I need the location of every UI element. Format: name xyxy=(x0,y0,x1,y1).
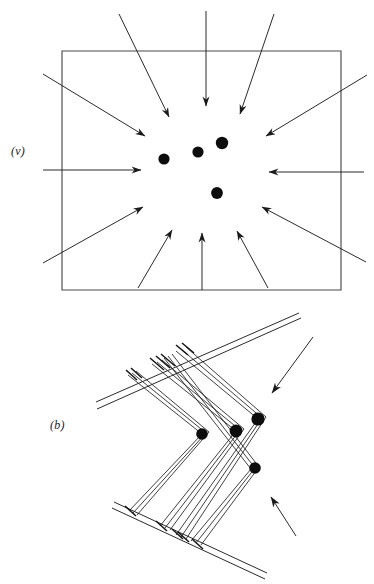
arrow-top-left-in xyxy=(119,14,169,117)
arrow-lower-left-diag xyxy=(43,207,143,263)
arrow-bottom-right-up xyxy=(237,231,268,288)
hatch-mark xyxy=(156,356,170,368)
arrow-bottom-left-up xyxy=(138,230,172,288)
dot xyxy=(158,153,169,164)
dot xyxy=(192,146,203,157)
panel-b-diagram xyxy=(0,294,374,584)
bundle-line xyxy=(176,351,258,535)
panel-v-diagram xyxy=(0,0,374,310)
panel-label-v: (v) xyxy=(11,144,25,159)
arrow-top-right-in xyxy=(240,14,274,114)
panel-label-b: (b) xyxy=(50,418,65,433)
arrow-lower-right-diag xyxy=(262,207,366,262)
dot xyxy=(251,412,264,425)
hatch-mark xyxy=(172,529,183,539)
dot xyxy=(230,425,243,438)
panel-b-arrow-group xyxy=(271,337,313,536)
arrow-upper-incoming xyxy=(272,337,313,393)
dot xyxy=(249,462,261,474)
bundle-line xyxy=(164,358,251,541)
bundle-line xyxy=(136,371,209,515)
panel-b-bundle-3 xyxy=(176,347,266,539)
band-line xyxy=(112,508,265,579)
panel-b-lower-band xyxy=(112,502,267,579)
bundle-line xyxy=(172,354,259,545)
arrow-upper-left-diag xyxy=(43,74,145,136)
arrow-lower-incoming xyxy=(271,497,296,536)
dot xyxy=(216,137,228,149)
panel-v-boundary xyxy=(62,51,341,290)
panel-v-arrow-group xyxy=(43,11,367,290)
arrow-upper-right-diag xyxy=(266,75,367,136)
panel-v-dot-cluster xyxy=(158,137,228,199)
dot xyxy=(196,428,208,440)
band-line xyxy=(114,502,267,573)
figure-root: (v) (b) xyxy=(0,0,374,584)
bundle-line xyxy=(132,373,206,513)
dot xyxy=(211,187,223,199)
